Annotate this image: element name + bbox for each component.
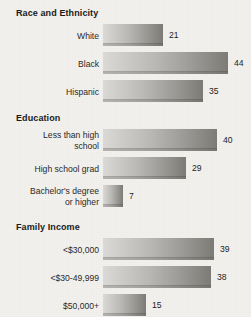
bar-row-label: Bachelor's degree or higher: [7, 186, 99, 207]
bar-track: [103, 238, 214, 260]
bar-row-label: High school grad: [7, 164, 99, 175]
bar-row: Hispanic 35: [0, 80, 251, 104]
bar-row: Less than high school 40: [0, 129, 251, 153]
bar-chart: Race and Ethnicity White 21 Black 44 His…: [0, 0, 251, 317]
bar-track: [103, 52, 228, 74]
bar-row-label: Hispanic: [7, 87, 99, 98]
bar-row-label: <$30,000: [7, 245, 99, 256]
section-header-family-income: Family Income: [16, 222, 80, 232]
bar-row: Black 44: [0, 52, 251, 76]
bar-row-label: Less than high school: [7, 130, 99, 151]
bar-row: High school grad 29: [0, 157, 251, 181]
bar-track: [103, 80, 203, 102]
bar-value-label: 15: [152, 300, 162, 310]
bar-fill: [103, 238, 214, 260]
bar-value-label: 38: [217, 272, 227, 282]
bar-row: <$30,000 39: [0, 238, 251, 262]
bar-fill: [103, 294, 146, 316]
bar-fill: [103, 80, 203, 102]
bar-track: [103, 129, 217, 151]
bar-fill: [103, 157, 186, 179]
bar-row-label: <$30-49,999: [7, 273, 99, 284]
bar-value-label: 35: [209, 86, 219, 96]
bar-value-label: 40: [223, 135, 233, 145]
bar-value-label: 29: [192, 163, 202, 173]
bar-track: [103, 24, 163, 46]
section-header-education: Education: [16, 113, 60, 123]
bar-fill: [103, 129, 217, 151]
bar-track: [103, 266, 211, 288]
bar-row: Bachelor's degree or higher 7: [0, 185, 251, 209]
bar-track: [103, 157, 186, 179]
bar-track: [103, 294, 146, 316]
section-header-race-and-ethnicity: Race and Ethnicity: [16, 8, 98, 18]
bar-row-label: Black: [7, 59, 99, 70]
bar-row: $50,000+ 15: [0, 294, 251, 317]
bar-value-label: 7: [129, 191, 134, 201]
bar-row: White 21: [0, 24, 251, 48]
bar-value-label: 21: [169, 30, 179, 40]
bar-row: <$30-49,999 38: [0, 266, 251, 290]
bar-value-label: 39: [220, 244, 230, 254]
bar-row-label: White: [7, 31, 99, 42]
bar-fill: [103, 185, 123, 207]
bar-value-label: 44: [234, 58, 244, 68]
bar-fill: [103, 52, 228, 74]
bar-fill: [103, 266, 211, 288]
bar-fill: [103, 24, 163, 46]
bar-row-label: $50,000+: [7, 301, 99, 312]
bar-track: [103, 185, 123, 207]
